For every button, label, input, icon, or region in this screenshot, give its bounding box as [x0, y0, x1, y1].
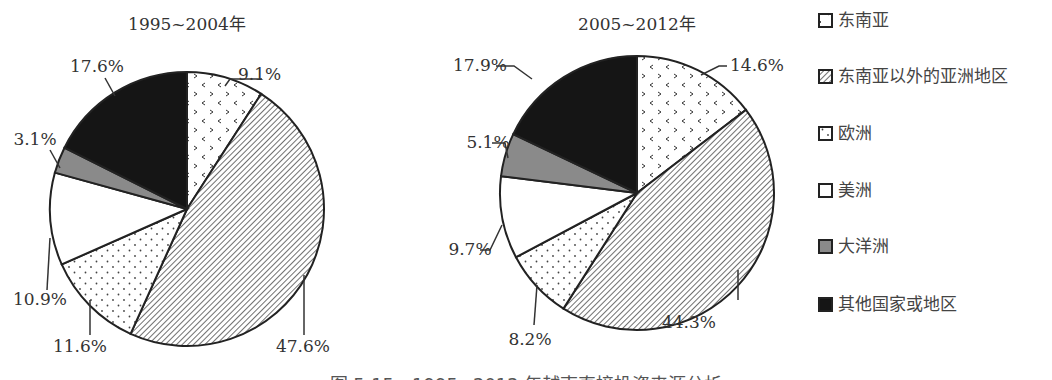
- legend-label: 美洲: [838, 180, 872, 200]
- figure-caption-clip: 图 5-15 1995~2012 年越南直接投资来源分析: [0, 370, 1052, 380]
- legend-swatch: [819, 184, 832, 197]
- legend-label: 东南亚: [838, 10, 889, 30]
- legend-swatch: [819, 70, 832, 83]
- figure-caption: 图 5-15 1995~2012 年越南直接投资来源分析: [0, 370, 1052, 380]
- pie-charts: 1995~2004年 2005~2012年 9.1%47.6%11.6%10.9…: [0, 0, 1052, 380]
- legend-label: 其他国家或地区: [838, 294, 957, 314]
- leader-line: [105, 78, 115, 96]
- legend-swatch: [819, 127, 832, 140]
- chart-title-1: 1995~2004年: [128, 14, 246, 34]
- data-label: 14.6%: [730, 55, 784, 75]
- data-label: 47.6%: [276, 336, 330, 356]
- data-label: 17.6%: [70, 56, 124, 76]
- legend-label: 大洋洲: [838, 236, 889, 256]
- data-label: 3.1%: [13, 129, 56, 149]
- data-label: 9.1%: [238, 64, 281, 84]
- legend-swatch: [819, 298, 832, 311]
- data-label: 8.2%: [508, 329, 551, 349]
- legend-label: 东南亚以外的亚洲地区: [838, 66, 1008, 86]
- legend: 东南亚东南亚以外的亚洲地区欧洲美洲大洋洲其他国家或地区: [819, 10, 1008, 314]
- pie-2005-2012: [500, 56, 774, 330]
- pie-1995-2004: [50, 72, 324, 346]
- data-label: 5.1%: [466, 132, 509, 152]
- leader-line: [701, 66, 727, 75]
- chart-title-2: 2005~2012年: [578, 14, 696, 34]
- data-label: 44.3%: [662, 312, 716, 332]
- leader-line: [534, 285, 537, 325]
- legend-swatch: [819, 240, 832, 253]
- legend-swatch: [819, 14, 832, 27]
- leader-line: [47, 238, 50, 290]
- data-label: 11.6%: [53, 336, 107, 356]
- data-label: 10.9%: [13, 289, 67, 309]
- data-label: 17.9%: [453, 55, 507, 75]
- legend-label: 欧洲: [838, 123, 872, 143]
- data-label: 9.7%: [448, 239, 491, 259]
